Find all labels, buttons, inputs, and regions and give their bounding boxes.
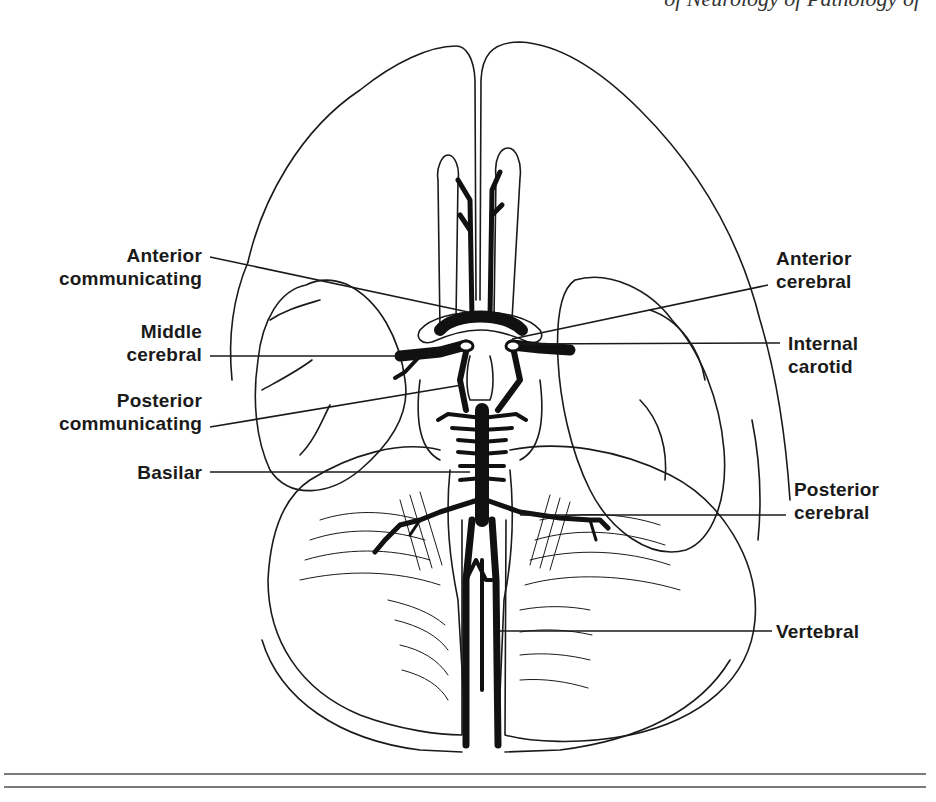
left-frontal-lobe (248, 46, 476, 300)
label-basilar: Basilar (40, 461, 202, 484)
label-posterior-cerebral: Posterior cerebral (794, 478, 934, 524)
divider-rule-top (4, 773, 926, 775)
label-posterior-communicating: Posterior communicating (40, 389, 202, 435)
label-line: cerebral (776, 270, 926, 293)
left-cerebellum (268, 447, 462, 735)
right-cerebellum (505, 446, 755, 741)
label-anterior-communicating: Anterior communicating (40, 244, 202, 290)
label-line: Basilar (40, 461, 202, 484)
label-line: carotid (788, 355, 928, 378)
middle-cerebral-left (400, 345, 466, 356)
label-line: cerebral (40, 343, 202, 366)
label-line: Posterior (794, 478, 934, 501)
right-frontal-lobe (480, 42, 790, 500)
leader-posterior-communicating (210, 385, 462, 427)
label-line: Posterior (40, 389, 202, 412)
label-middle-cerebral: Middle cerebral (40, 320, 202, 366)
label-line: Middle (40, 320, 202, 343)
posterior-communicating-right (498, 352, 520, 410)
internal-carotid-right (506, 341, 520, 351)
label-line: communicating (40, 267, 202, 290)
label-internal-carotid: Internal carotid (788, 332, 928, 378)
leader-anterior-communicating (210, 257, 468, 312)
leader-anterior-cerebral (512, 285, 768, 339)
anterior-cerebral-left (458, 180, 472, 318)
vertebral-left (466, 520, 472, 745)
label-vertebral: Vertebral (776, 620, 926, 643)
label-line: Vertebral (776, 620, 926, 643)
label-line: Anterior (776, 247, 926, 270)
vertebral-right (492, 520, 498, 745)
left-olfactory-tract (438, 155, 459, 330)
label-line: Anterior (40, 244, 202, 267)
anterior-communicating-arc (440, 317, 522, 331)
divider-rule-bottom (4, 786, 926, 788)
posterior-communicating-left (460, 352, 466, 410)
internal-carotid-left (459, 341, 473, 351)
label-line: Internal (788, 332, 928, 355)
label-line: cerebral (794, 501, 934, 524)
left-temporal-lobe (255, 280, 406, 490)
label-line: communicating (40, 412, 202, 435)
leader-internal-carotid (518, 343, 780, 344)
right-temporal-lobe (558, 277, 725, 552)
label-anterior-cerebral: Anterior cerebral (776, 247, 926, 293)
